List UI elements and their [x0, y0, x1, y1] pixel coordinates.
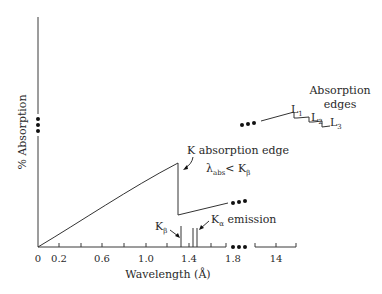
k-edge-label: K absorption edge [187, 144, 289, 157]
k-alpha-label: Kα emission [211, 213, 276, 228]
tick-label-1.4: 1.4 [181, 253, 197, 264]
tick-label-1.0: 1.0 [138, 253, 154, 264]
tick-label-0.6: 0.6 [94, 253, 110, 264]
k-edge-arrowhead [183, 165, 188, 170]
x-axis-label: Wavelength (Å) [125, 267, 210, 281]
y-axis-break-dots [36, 117, 40, 133]
l1-label: L1 [291, 103, 303, 118]
k-beta-label: Kβ [155, 220, 167, 235]
l3-label: L3 [330, 116, 342, 131]
tick-label-0.2: 0.2 [51, 253, 67, 264]
l2-label: L2 [311, 111, 323, 126]
x-axis-ticks [59, 243, 226, 247]
k-absorption-curve [38, 163, 228, 247]
tick-label-0: 0 [35, 253, 41, 264]
absorption-chart: 0 0.2 0.6 1.0 1.4 1.8 14 Wavelength (Å) … [0, 0, 382, 294]
tick-label-1.8: 1.8 [225, 253, 241, 264]
absorption-edges-label-line2: edges [324, 98, 357, 111]
absorption-edges-label-line1: Absorption [308, 84, 370, 97]
y-axis-label: % Absorption [16, 94, 29, 169]
curve-continuation-dots [231, 199, 247, 205]
l-region-dots [240, 121, 256, 127]
x-axis-break-dots [231, 245, 247, 249]
lambda-condition: λabs< Kβ [206, 162, 250, 177]
tick-label-14: 14 [270, 253, 283, 264]
